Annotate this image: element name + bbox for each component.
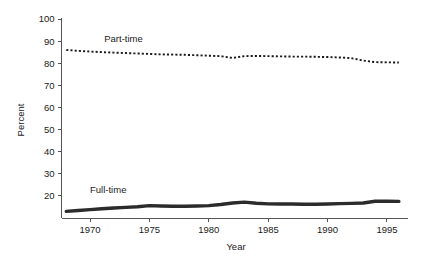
y-tick-label: 70 (44, 80, 55, 91)
y-tick-label: 40 (44, 146, 55, 157)
x-tick-label: 1985 (258, 224, 279, 235)
x-tick-label: 1995 (376, 224, 397, 235)
series-line-part-time (66, 50, 399, 63)
x-tick-label: 1975 (139, 224, 160, 235)
y-tick-label: 30 (44, 168, 55, 179)
y-tick-label: 80 (44, 58, 55, 69)
y-axis-title: Percent (15, 103, 26, 136)
series-label-part-time: Part-time (104, 33, 143, 44)
x-tick-label: 1980 (198, 224, 219, 235)
line-chart: 2030405060708090100 19701975198019851990… (0, 0, 423, 262)
series-layer: Part-timeFull-time (66, 33, 399, 211)
y-axis: 2030405060708090100 (39, 13, 62, 218)
x-tick-label: 1990 (317, 224, 338, 235)
x-axis: 197019751980198519901995 (62, 218, 409, 235)
y-tick-label: 60 (44, 102, 55, 113)
y-tick-label: 90 (44, 36, 55, 47)
x-axis-title: Year (226, 241, 245, 252)
chart-container: 2030405060708090100 19701975198019851990… (0, 0, 423, 262)
series-label-full-time: Full-time (90, 184, 126, 195)
series-line-full-time (66, 201, 399, 211)
y-tick-label: 50 (44, 124, 55, 135)
x-tick-label: 1970 (79, 224, 100, 235)
y-tick-label: 20 (44, 190, 55, 201)
y-tick-label: 100 (39, 13, 55, 24)
